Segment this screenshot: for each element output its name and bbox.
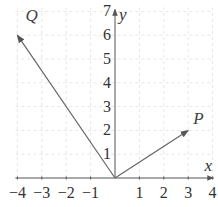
y-tick-label: 5 xyxy=(103,50,111,67)
grid xyxy=(15,7,212,178)
y-tick-label: 7 xyxy=(103,2,111,19)
x-tick-label: 2 xyxy=(160,184,168,201)
x-tick-label: −4 xyxy=(9,184,26,201)
x-tick-label: −3 xyxy=(33,184,50,201)
axes: xy xyxy=(15,5,213,178)
y-tick-label: 1 xyxy=(103,145,111,162)
y-tick-label: 4 xyxy=(103,74,111,91)
y-tick-label: 3 xyxy=(103,98,111,115)
x-tick-label: −1 xyxy=(82,184,99,201)
y-tick-label: 2 xyxy=(103,121,111,138)
vector-label-p: P xyxy=(192,109,203,128)
x-tick-label: 1 xyxy=(135,184,143,201)
tick-labels: −4−3−2−112341234567 xyxy=(9,2,217,201)
x-tick-label: −2 xyxy=(58,184,75,201)
vector-diagram: xy −4−3−2−112341234567 PQ xyxy=(0,0,218,207)
vector-label-q: Q xyxy=(25,6,37,25)
x-tick-label: 3 xyxy=(184,184,192,201)
x-tick-label: 4 xyxy=(209,184,217,201)
y-axis-label: y xyxy=(117,5,127,24)
y-tick-label: 6 xyxy=(103,26,111,43)
x-axis-label: x xyxy=(204,156,213,175)
